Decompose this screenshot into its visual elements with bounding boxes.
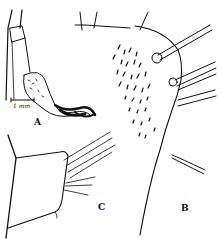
scale-bar-label: 1 mm bbox=[13, 103, 30, 109]
panel-label-a: A bbox=[34, 118, 41, 127]
panel-b-drawing bbox=[75, 12, 216, 235]
panel-label-b: B bbox=[181, 204, 189, 213]
scientific-figure: 1 mm A B C bbox=[0, 0, 221, 239]
panel-label-c: C bbox=[98, 203, 105, 212]
bristle-field bbox=[113, 45, 155, 138]
panel-c-drawing bbox=[6, 132, 115, 238]
